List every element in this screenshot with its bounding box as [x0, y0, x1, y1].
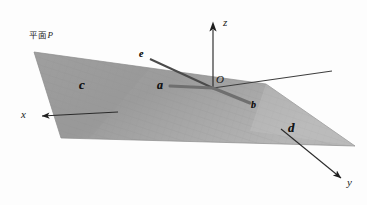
figure-canvas: [0, 0, 367, 205]
geometry-figure: 平面P z y x O a b e c d: [0, 0, 367, 205]
vector-a-line: [170, 86, 213, 88]
plane-p-shape: [34, 52, 355, 146]
